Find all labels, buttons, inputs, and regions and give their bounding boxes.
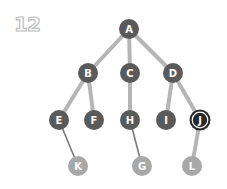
node-label: I (164, 115, 168, 126)
tree-diagram: ABCDEFHIJKGL (0, 0, 227, 189)
node-label: E (56, 115, 63, 126)
node-k: K (68, 156, 88, 176)
tree-edges (59, 29, 200, 166)
node-g: G (132, 156, 152, 176)
node-b: B (78, 63, 98, 83)
node-a: A (119, 19, 139, 39)
node-f: F (84, 110, 104, 130)
node-i: I (156, 110, 176, 130)
node-j: J (190, 110, 211, 131)
node-label: L (189, 161, 196, 172)
node-c: C (120, 63, 140, 83)
node-label: D (169, 68, 177, 79)
node-label: G (138, 161, 146, 172)
node-label: F (91, 115, 98, 126)
node-label: J (197, 115, 202, 126)
node-l: L (182, 156, 202, 176)
node-e: E (49, 110, 69, 130)
node-label: C (126, 68, 133, 79)
node-label: B (84, 68, 92, 79)
node-label: A (125, 24, 133, 35)
node-h: H (120, 110, 140, 130)
node-label: H (126, 115, 134, 126)
node-label: K (74, 161, 83, 172)
node-d: D (163, 63, 183, 83)
